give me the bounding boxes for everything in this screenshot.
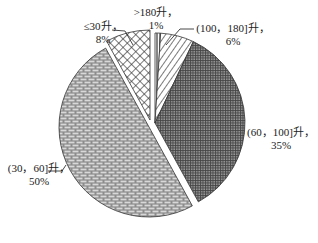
label-60-100-name: (60，100]升， xyxy=(244,126,318,139)
pie-slices xyxy=(59,30,245,217)
label-30-60-name: (30，60]升， xyxy=(4,162,74,175)
label-100-180: (100，180]升， 6% xyxy=(190,22,276,48)
label-30-60-pct: 50% xyxy=(4,175,74,188)
label-gt180: >180升， 1% xyxy=(128,6,184,32)
label-100-180-pct: 6% xyxy=(190,35,276,48)
label-gt180-name: >180升， xyxy=(128,6,184,19)
label-60-100-pct: 35% xyxy=(244,139,318,152)
label-le30-name: ≤30升， xyxy=(78,20,128,33)
label-gt180-pct: 1% xyxy=(128,19,184,32)
label-60-100: (60，100]升， 35% xyxy=(244,126,318,152)
label-100-180-name: (100，180]升， xyxy=(190,22,276,35)
label-le30: ≤30升， 8% xyxy=(78,20,128,46)
label-30-60: (30，60]升， 50% xyxy=(4,162,74,188)
label-le30-pct: 8% xyxy=(78,33,128,46)
